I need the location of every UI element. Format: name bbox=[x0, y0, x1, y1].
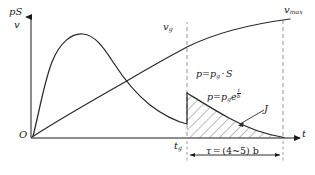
eq1-equals: = bbox=[202, 68, 210, 79]
x-axis-label: t bbox=[302, 128, 306, 139]
y-axis-label-bottom: v bbox=[14, 19, 20, 30]
impulse-leader-line bbox=[240, 110, 264, 124]
eq1-rhs-tail: S bbox=[226, 68, 233, 79]
t-g-subscript: g bbox=[178, 144, 182, 151]
equation-pressure-decay: p=pge t b bbox=[207, 88, 241, 102]
y-axis-label-top: pS bbox=[9, 6, 22, 17]
eq2-equals: = bbox=[213, 91, 221, 102]
v-g-label: vg bbox=[163, 21, 173, 32]
pressure-curve bbox=[33, 34, 187, 136]
v-max-label: vmax bbox=[284, 4, 303, 15]
equation-pressure-force: p=pg·S bbox=[196, 68, 232, 79]
v-max-subscript: max bbox=[290, 8, 303, 15]
impulse-label: J bbox=[264, 103, 268, 114]
v-g-subscript: g bbox=[169, 25, 173, 32]
origin-label: O bbox=[19, 129, 27, 140]
t-g-label: tg bbox=[174, 140, 182, 151]
eq2-exponent-fraction: t b bbox=[237, 88, 241, 99]
tau-value: (4~5) b bbox=[222, 145, 259, 156]
tau-equation: τ=(4~5) b bbox=[206, 145, 259, 156]
tau-equals: = bbox=[211, 145, 222, 156]
diagram-canvas bbox=[0, 0, 315, 175]
ballistics-pressure-velocity-diagram: pS v O t vg vmax tg J p=pg·S p=pge t b τ… bbox=[0, 0, 315, 175]
eq2-exponent-denominator: b bbox=[237, 94, 241, 99]
